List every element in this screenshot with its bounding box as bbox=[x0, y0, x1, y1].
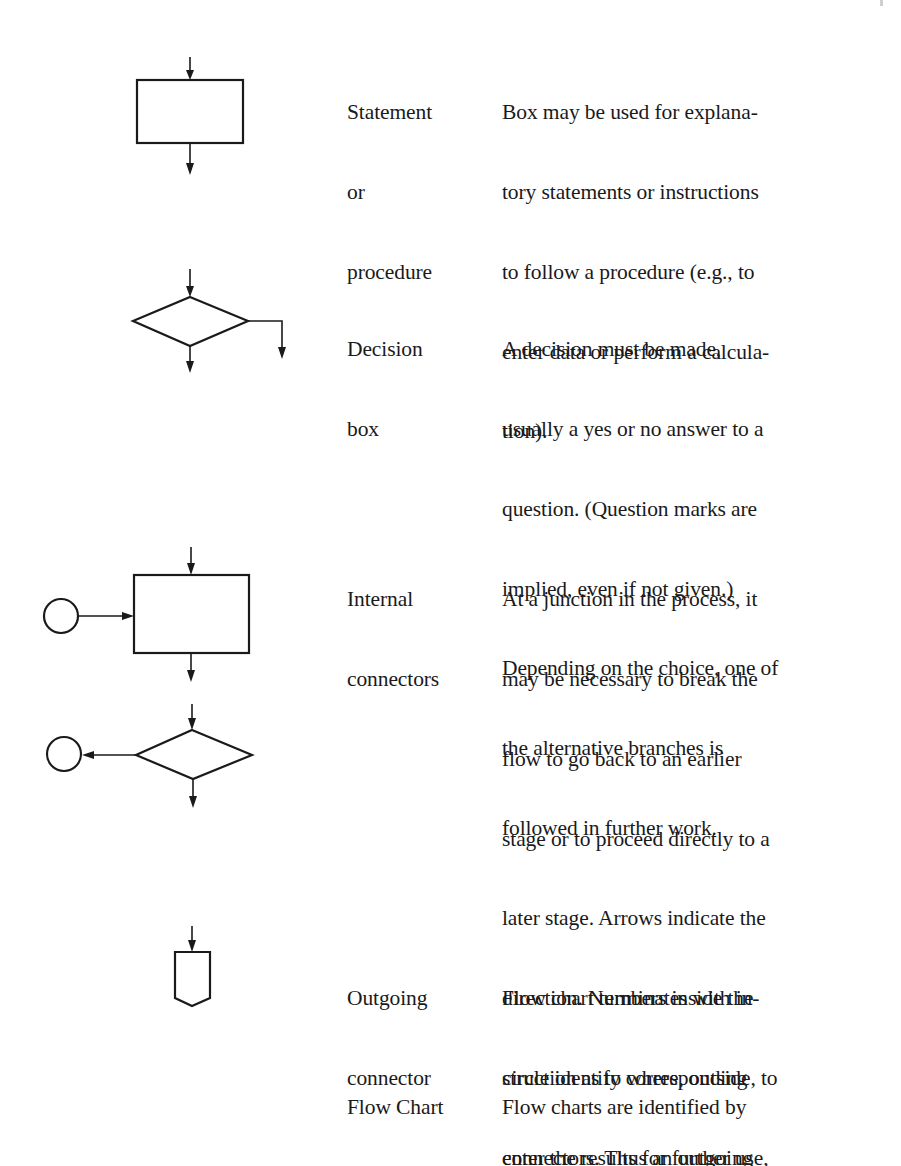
label-line: Decision bbox=[347, 336, 423, 363]
label-line: procedure bbox=[347, 259, 432, 286]
description-line: usually a yes or no answer to a bbox=[502, 416, 892, 443]
description-line: question. (Question marks are bbox=[502, 496, 892, 523]
statement-box-icon bbox=[137, 57, 243, 175]
description-line: Flow chart terminates with in- bbox=[502, 985, 892, 1012]
entry-label-internal-connectors: Internal connectors bbox=[347, 533, 439, 719]
description-line: flow to go back to an earlier bbox=[502, 746, 892, 773]
label-line: Statement bbox=[347, 99, 432, 126]
internal-connector-box-icon bbox=[44, 547, 249, 682]
description-line: tory statements or instructions bbox=[502, 179, 892, 206]
description-line: A decision must be made, bbox=[502, 336, 892, 363]
entry-description-flow-chart-number: Flow charts are identified by chapter nu… bbox=[502, 1041, 892, 1166]
label-line: Flow Chart bbox=[347, 1094, 443, 1121]
label-line: connectors bbox=[347, 666, 439, 693]
label-line: or bbox=[347, 179, 432, 206]
description-line: Flow charts are identified by bbox=[502, 1094, 892, 1121]
description-line: later stage. Arrows indicate the bbox=[502, 905, 892, 932]
label-line: Outgoing bbox=[347, 985, 431, 1012]
label-line: box bbox=[347, 416, 423, 443]
page-edge-mark bbox=[880, 0, 883, 6]
description-line: Box may be used for explana- bbox=[502, 99, 892, 126]
description-line: to follow a procedure (e.g., to bbox=[502, 259, 892, 286]
description-line: stage or to proceed directly to a bbox=[502, 826, 892, 853]
description-line: may be necessary to break the bbox=[502, 666, 892, 693]
label-line: Internal bbox=[347, 586, 439, 613]
entry-label-flow-chart-number: Flow Chart #.# bbox=[347, 1041, 443, 1166]
entry-label-statement: Statement or procedure bbox=[347, 46, 432, 312]
entry-label-decision: Decision box bbox=[347, 283, 423, 469]
decision-diamond-icon bbox=[133, 269, 286, 373]
internal-connector-diamond-icon bbox=[47, 704, 252, 808]
description-line: At a junction in the process, it bbox=[502, 586, 892, 613]
outgoing-connector-icon bbox=[175, 926, 210, 1006]
